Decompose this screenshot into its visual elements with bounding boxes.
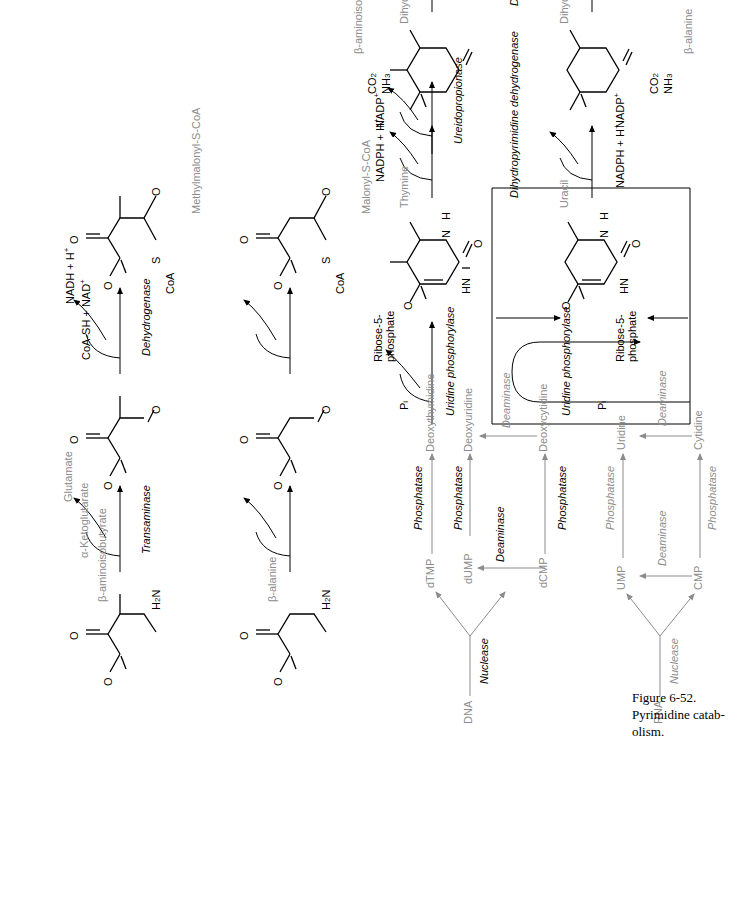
figure-page: RNA Nuclease UMP CMP Deaminase Uridine C… <box>0 0 754 910</box>
uracil-ring-h-label: H <box>598 212 611 220</box>
dcmp-label: dCMP <box>537 557 550 588</box>
alanine-o-minus-label: O <box>272 677 285 686</box>
semialdehyde-aldehyde-o-label: O <box>150 405 163 414</box>
deaminase-nucleoside-label: Deaminase <box>656 370 669 426</box>
pi-top-label: Pi <box>398 401 411 410</box>
dihydropyrimidinase-label: Dihydropyrimidinase <box>508 0 521 6</box>
nuclease-dna-label: Nuclease <box>478 638 491 684</box>
figure-caption-line1: Figure 6-52. Pyrimidine catab- <box>632 690 754 724</box>
figure-caption-line2: olism. <box>632 724 754 741</box>
uracil-ring-o-label: O <box>560 301 573 310</box>
malonyl-carbonyl-o-label: O <box>320 187 333 196</box>
figure-caption: Figure 6-52. Pyrimidine catab- olism. <box>632 690 754 741</box>
thymine-ring-hn-label: HN <box>460 278 473 294</box>
cytidine-label: Cytidine <box>692 410 705 450</box>
glutamate-label: Glutamate <box>62 451 75 502</box>
transaminase-enzyme-label: Transaminase <box>140 485 153 554</box>
deaminase-deoxycytidine-label: Deaminase <box>500 372 513 428</box>
alanine-h2n-label: H2N <box>320 590 333 610</box>
alpha-ketoglutarate-label: α-Ketoglutarate <box>78 483 91 558</box>
dna-label: DNA <box>462 701 475 724</box>
malonate-semialdehyde-o-label: O <box>238 435 251 444</box>
malonyl-s-label: S <box>320 257 333 264</box>
uridine-label: Uridine <box>615 415 628 450</box>
deoxycytidine-label: Deoxycytidine <box>537 384 550 452</box>
dihydrouracil-label: Dihydrouracil <box>558 0 571 24</box>
methylmalonyl-coa-structure <box>86 196 156 276</box>
nadp-top-label: NADP+ <box>372 93 386 128</box>
malonate-semialdehyde-o-minus-label: O <box>272 481 285 490</box>
methylmalonyl-o-minus-label: O <box>102 281 115 290</box>
rotated-diagram-canvas: RNA Nuclease UMP CMP Deaminase Uridine C… <box>0 0 754 754</box>
uracil-ring-n-label: N <box>598 230 611 238</box>
dihydrothymine-label: Dihydrothymine <box>398 0 411 24</box>
ureidopropionase-label: Ureidopropionase <box>452 57 465 144</box>
nh3-bottom-label: NH3 <box>662 74 675 94</box>
uracil-label: Uracil <box>558 180 571 208</box>
nadp-bottom-label: NADP+ <box>612 93 626 128</box>
malonyl-coa-text-label: CoA <box>334 273 347 294</box>
methylmalonate-semialdehyde-structure <box>86 396 144 476</box>
alanine-structure <box>256 614 326 672</box>
methylmalonyl-carbonyl-o-label: O <box>150 187 163 196</box>
malonate-semialdehyde-aldehyde-o-label: O <box>320 405 333 414</box>
phosphatase-ump-label: Phosphatase <box>604 466 617 530</box>
ribose-5-phosphate-bottom-label: Ribose-5-phosphate <box>614 311 638 362</box>
deaminase-dcmp-label: Deaminase <box>494 506 507 562</box>
aminoisobutyrate-h2n-label: H2N <box>150 590 163 610</box>
methylmalonyl-s-coa-label: Methylmalonyl-S-CoA <box>190 108 203 214</box>
malonyl-o-label: O <box>238 235 251 244</box>
semialdehyde-o-minus-label: O <box>102 481 115 490</box>
phosphatase-dcmp-label: Phosphatase <box>556 466 569 530</box>
aminoisobutyrate-structure <box>86 594 156 672</box>
thymine-ring-o-label: O <box>402 301 415 310</box>
aminoisobutyrate-o-label: O <box>68 631 81 640</box>
thymine-ring-h-label: H <box>440 212 453 220</box>
alanine-o-label: O <box>238 631 251 640</box>
uridine-phosphorylase-top-label: Uridine phosphorylase <box>444 307 457 416</box>
co2-top-label: CO2 <box>366 73 379 94</box>
thymine-label: Thymine <box>398 166 411 208</box>
malonyl-o-minus-label: O <box>272 281 285 290</box>
pi-bottom-label: Pi <box>596 401 609 410</box>
nuclease-rna-label: Nuclease <box>668 638 681 684</box>
deaminase-nucleotide-label: Deaminase <box>656 510 669 566</box>
uracil-ring-carbonyl-o-label: O <box>630 239 643 248</box>
deoxythymidine-label: Deoxythymidine <box>424 374 437 452</box>
coash-nad-label: CoA-SH + NAD+ <box>78 279 92 360</box>
phosphatase-dump-label: Phosphatase <box>452 466 465 530</box>
uridine-phosphorylase-bottom-label: Uridine phosphorylase <box>560 307 573 416</box>
aminoisobutyrate-product-label: β-aminoisobutyrate <box>352 0 365 54</box>
cmp-label: CMP <box>692 566 705 590</box>
alanine-product-label: β-alanine <box>682 9 695 54</box>
dtmp-label: dTMP <box>424 559 437 588</box>
co2-bottom-label: CO2 <box>648 73 661 94</box>
methylmalonyl-s-label: S <box>150 257 163 264</box>
dehydrogenase-coa-enzyme-label: Dehydrogenase <box>140 278 153 356</box>
methylmalonyl-coa-text-label: CoA <box>164 273 177 294</box>
thymine-ring-carbonyl-o-label: O <box>472 239 485 248</box>
malonyl-s-coa-label: Malonyl-S-CoA <box>360 140 373 214</box>
nadh-h-label: NADH + H+ <box>62 248 76 304</box>
aminoisobutyrate-o-minus-label: O <box>102 677 115 686</box>
phosphatase-cmp-label: Phosphatase <box>706 466 719 530</box>
malonate-semialdehyde-structure <box>256 418 314 476</box>
ribose-5-phosphate-top-label: Ribose-5-phosphate <box>372 311 396 362</box>
thymine-ring-n-label: N <box>440 230 453 238</box>
nadph-bottom-label: NADPH + H+ <box>612 124 626 188</box>
transaminase-substrate-label: β-aminoisobutyrate <box>96 508 109 602</box>
semialdehyde-o-label: O <box>68 435 81 444</box>
nh3-top-label: NH3 <box>380 74 393 94</box>
dump-label: dUMP <box>462 553 475 584</box>
ump-label: UMP <box>615 566 628 590</box>
methylmalonyl-o-label: O <box>68 235 81 244</box>
deoxyuridine-label: Deoxyuridine <box>462 388 475 452</box>
phosphatase-dtmp-label: Phosphatase <box>412 466 425 530</box>
dihydropyrimidine-dehydrogenase-label: Dihydropyrimidine dehydrogenase <box>508 31 521 198</box>
malonyl-coa-structure <box>256 196 326 276</box>
alanine-start-label: β-alanine <box>266 557 279 602</box>
uracil-ring-hn-label: HN <box>618 278 631 294</box>
